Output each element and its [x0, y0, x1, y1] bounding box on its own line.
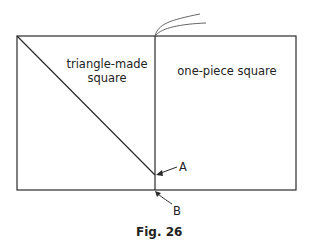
left-square-label-line1: triangle-made	[62, 57, 152, 71]
left-square-label-line2: square	[62, 71, 152, 85]
figure-caption: Fig. 26	[136, 225, 182, 239]
arrowhead-a	[156, 170, 163, 176]
diagram-drawing	[0, 0, 312, 245]
right-square-label: one-piece square	[172, 64, 282, 78]
point-a-label: A	[179, 160, 187, 174]
point-b-label: B	[173, 204, 181, 218]
thread-end	[155, 14, 200, 36]
outer-rectangle	[17, 36, 296, 190]
